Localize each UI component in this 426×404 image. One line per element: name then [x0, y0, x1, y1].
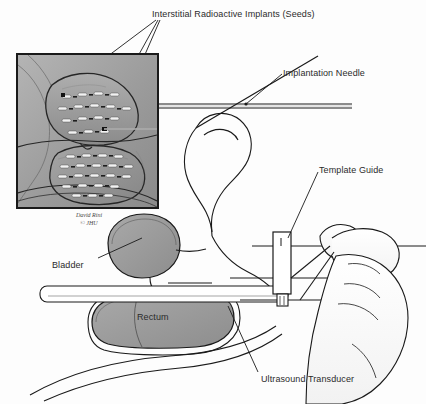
attribution-copyright: © JHU — [66, 219, 112, 227]
attribution-artist: David Rini — [66, 211, 112, 219]
inset-magnified-view — [16, 53, 159, 209]
label-template-guide: Template Guide — [319, 165, 383, 175]
needle-hub-line — [196, 56, 318, 128]
label-ultrasound-transducer: Ultrasound Transducer — [261, 374, 354, 384]
label-rectum: Rectum — [137, 312, 169, 322]
bladder-organ — [108, 214, 206, 278]
pelvic-body-outline — [184, 113, 251, 236]
illustration-canvas: Interstitial Radioactive Implants (Seeds… — [0, 0, 426, 404]
label-implantation-needle: Implantation Needle — [283, 68, 365, 78]
label-seeds: Interstitial Radioactive Implants (Seeds… — [152, 9, 315, 19]
label-bladder: Bladder — [52, 260, 84, 270]
inset-artwork — [18, 55, 157, 207]
leader-endpoints — [244, 102, 247, 105]
